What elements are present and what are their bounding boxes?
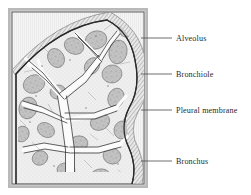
label-pleural-membrane: Pleural membrane — [176, 106, 238, 115]
callout-alveolus: Alveolus — [141, 34, 206, 43]
label-alveolus: Alveolus — [176, 34, 206, 43]
callout-bronchiole: Bronchiole — [141, 70, 214, 79]
callout-labels: Alveolus Bronchiole Pleural membrane Bro… — [141, 34, 238, 166]
label-bronchiole: Bronchiole — [176, 70, 214, 79]
label-bronchus: Bronchus — [176, 157, 208, 166]
lung-diagram-canvas: Alveolus Bronchiole Pleural membrane Bro… — [0, 0, 251, 195]
callout-pleural-membrane: Pleural membrane — [141, 106, 238, 115]
lung-diagram-figure: Alveolus Bronchiole Pleural membrane Bro… — [0, 0, 251, 195]
callout-bronchus: Bronchus — [141, 157, 208, 166]
